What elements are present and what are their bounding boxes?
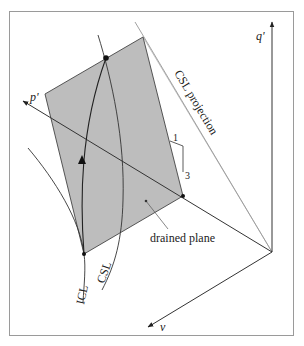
drained-plane-diagram: p' q' v CSL projection drained plane ICL…	[0, 0, 304, 346]
p-axis-label: p'	[29, 90, 39, 104]
slope-rise-label: 3	[185, 170, 190, 181]
bottom-left-point	[82, 252, 86, 256]
drained-plane-leader-dot	[145, 200, 148, 203]
v-axis-label: v	[160, 320, 166, 334]
right-point	[181, 194, 185, 198]
top-point	[103, 55, 109, 61]
csl-label: CSL	[94, 260, 115, 285]
slope-run-label: 1	[173, 132, 178, 143]
icl-label: ICL	[73, 284, 91, 306]
csl-projection-label: CSL projection	[171, 67, 221, 137]
drained-plane-label: drained plane	[150, 231, 215, 245]
q-axis-label: q'	[256, 29, 265, 43]
v-axis	[148, 252, 272, 327]
